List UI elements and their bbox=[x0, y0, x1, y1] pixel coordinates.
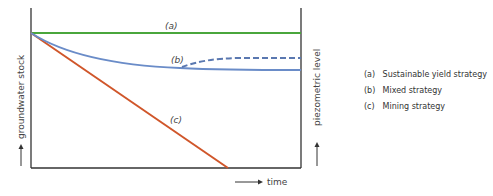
curve-b-mixed bbox=[31, 33, 301, 70]
curve-b-mixed-recovery bbox=[182, 58, 301, 67]
legend: (a) Sustainable yield strategy (b) Mixed… bbox=[364, 67, 487, 115]
curve-c-mining bbox=[31, 33, 228, 168]
label-c: (c) bbox=[170, 115, 182, 125]
legend-item-c: (c) Mining strategy bbox=[364, 99, 487, 115]
legend-item-b: (b) Mixed strategy bbox=[364, 83, 487, 99]
label-b: (b) bbox=[171, 55, 184, 65]
legend-item-a: (a) Sustainable yield strategy bbox=[364, 67, 487, 83]
label-a: (a) bbox=[165, 21, 178, 31]
y-right-label: piezometric level bbox=[312, 49, 322, 126]
y-left-label: groundwater stock bbox=[16, 54, 26, 139]
x-axis-label: time bbox=[267, 177, 288, 187]
